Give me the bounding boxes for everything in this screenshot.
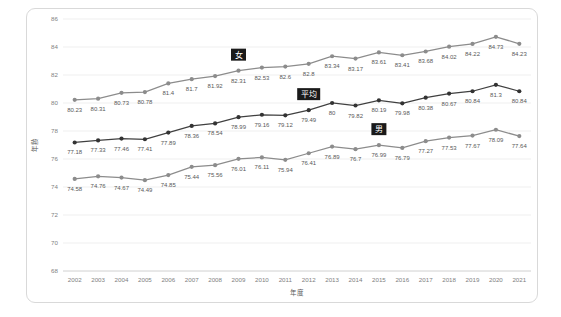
chart-card: 6870727476788082848620022003200420052006…: [26, 8, 538, 303]
x-axis-tick-label: 2006: [161, 276, 175, 283]
data-point[interactable]: [447, 92, 451, 96]
data-point[interactable]: [283, 113, 287, 117]
data-label: 84.22: [465, 51, 481, 57]
data-point[interactable]: [400, 101, 404, 105]
data-point[interactable]: [424, 49, 428, 53]
data-point[interactable]: [119, 176, 123, 180]
data-point[interactable]: [307, 151, 311, 155]
data-point[interactable]: [377, 50, 381, 54]
y-axis-tick-label: 78: [51, 127, 58, 134]
data-point[interactable]: [330, 144, 334, 148]
data-point[interactable]: [236, 157, 240, 161]
data-point[interactable]: [236, 69, 240, 73]
data-point[interactable]: [377, 143, 381, 147]
data-point[interactable]: [494, 128, 498, 132]
data-label: 80.84: [465, 98, 481, 104]
x-axis-tick-label: 2004: [115, 276, 129, 283]
data-point[interactable]: [307, 108, 311, 112]
y-axis-tick-label: 80: [51, 99, 58, 106]
data-point[interactable]: [166, 173, 170, 177]
x-axis-tick-label: 2017: [419, 276, 433, 283]
data-point[interactable]: [143, 90, 147, 94]
data-label: 80.23: [67, 107, 83, 113]
data-point[interactable]: [283, 65, 287, 69]
y-axis-tick-label: 84: [51, 43, 58, 50]
data-point[interactable]: [143, 178, 147, 182]
data-point[interactable]: [424, 96, 428, 100]
data-point[interactable]: [447, 135, 451, 139]
data-point[interactable]: [236, 115, 240, 119]
data-point[interactable]: [330, 54, 334, 58]
data-label: 74.85: [161, 182, 177, 188]
y-axis-tick-label: 74: [51, 183, 58, 190]
data-label: 80.84: [512, 98, 528, 104]
data-label: 84.73: [488, 44, 504, 50]
data-label: 77.41: [137, 146, 153, 152]
data-label: 81.4: [162, 90, 174, 96]
data-point[interactable]: [190, 77, 194, 81]
data-point[interactable]: [96, 138, 100, 142]
series-annotation-label-男: 男: [375, 125, 383, 134]
data-point[interactable]: [96, 97, 100, 101]
data-point[interactable]: [213, 121, 217, 125]
data-point[interactable]: [353, 103, 357, 107]
data-label: 83.17: [348, 66, 364, 72]
y-axis-tick-label: 70: [51, 239, 58, 246]
data-point[interactable]: [260, 155, 264, 159]
data-point[interactable]: [447, 45, 451, 49]
data-point[interactable]: [260, 65, 264, 69]
data-point[interactable]: [119, 136, 123, 140]
data-point[interactable]: [400, 53, 404, 57]
data-point[interactable]: [260, 113, 264, 117]
data-point[interactable]: [494, 35, 498, 39]
data-point[interactable]: [470, 89, 474, 93]
data-point[interactable]: [424, 139, 428, 143]
data-point[interactable]: [73, 98, 77, 102]
data-label: 76.79: [395, 155, 411, 161]
data-point[interactable]: [400, 146, 404, 150]
x-axis-tick-label: 2020: [489, 276, 503, 283]
series-annotation-label-女: 女: [235, 50, 243, 60]
data-label: 77.33: [91, 147, 107, 153]
data-point[interactable]: [166, 81, 170, 85]
data-point[interactable]: [190, 165, 194, 169]
data-point[interactable]: [96, 174, 100, 178]
data-point[interactable]: [166, 130, 170, 134]
data-label: 77.27: [418, 148, 434, 154]
data-label: 83.34: [325, 63, 341, 69]
data-label: 82.31: [231, 78, 247, 84]
data-point[interactable]: [517, 89, 521, 93]
data-label: 79.49: [301, 117, 317, 123]
data-point[interactable]: [73, 140, 77, 144]
series-line-男: [75, 130, 520, 180]
data-point[interactable]: [119, 91, 123, 95]
x-axis-tick-label: 2003: [91, 276, 105, 283]
series-line-女: [75, 37, 520, 100]
data-point[interactable]: [470, 134, 474, 138]
data-point[interactable]: [73, 177, 77, 181]
data-point[interactable]: [377, 98, 381, 102]
data-point[interactable]: [213, 163, 217, 167]
data-point[interactable]: [283, 158, 287, 162]
data-label: 76.7: [350, 156, 362, 162]
data-point[interactable]: [353, 147, 357, 151]
data-point[interactable]: [353, 57, 357, 61]
data-label: 76.01: [231, 166, 247, 172]
data-point[interactable]: [494, 83, 498, 87]
data-label: 74.49: [137, 187, 153, 193]
y-axis-tick-label: 68: [51, 267, 58, 274]
data-point[interactable]: [213, 74, 217, 78]
data-point[interactable]: [330, 101, 334, 105]
line-chart: 6870727476788082848620022003200420052006…: [27, 9, 539, 304]
data-point[interactable]: [517, 42, 521, 46]
data-label: 75.94: [278, 167, 294, 173]
x-axis-tick-label: 2002: [68, 276, 82, 283]
data-point[interactable]: [517, 134, 521, 138]
data-point[interactable]: [143, 137, 147, 141]
data-label: 77.18: [67, 149, 83, 155]
data-point[interactable]: [307, 62, 311, 66]
series-line-平均: [75, 85, 520, 143]
data-point[interactable]: [190, 124, 194, 128]
data-label: 80.67: [442, 101, 458, 107]
data-point[interactable]: [470, 42, 474, 46]
